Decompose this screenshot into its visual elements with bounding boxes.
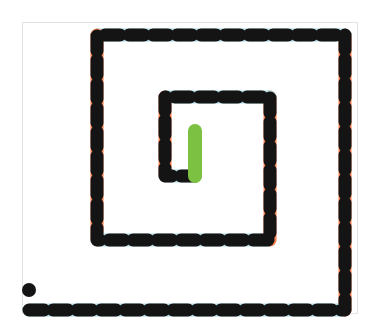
spiral-dashed-path [29,35,345,310]
dash-overlay [29,35,345,310]
spiral-path-graphic [0,0,380,336]
spiral-diagram-canvas [0,0,380,336]
start-dot [22,283,36,297]
